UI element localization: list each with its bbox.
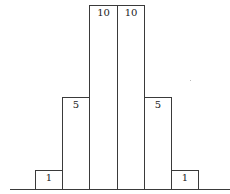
bar-value-label: 5 xyxy=(145,99,171,110)
histogram-bar: 5 xyxy=(144,97,172,189)
bar-value-label: 1 xyxy=(36,172,62,183)
x-axis-baseline xyxy=(10,189,230,190)
histogram-bar: 5 xyxy=(62,97,90,189)
bar-value-label: 10 xyxy=(90,7,117,18)
histogram-bar: 1 xyxy=(35,170,63,189)
histogram-bar: 10 xyxy=(89,5,118,189)
histogram-bar: 1 xyxy=(171,170,199,189)
scan-speck xyxy=(190,80,191,81)
bar-value-label: 1 xyxy=(172,172,198,183)
bar-value-label: 5 xyxy=(63,99,89,110)
histogram-chart: 15101051 xyxy=(0,0,230,194)
bar-value-label: 10 xyxy=(118,7,144,18)
histogram-bar: 10 xyxy=(117,5,145,189)
